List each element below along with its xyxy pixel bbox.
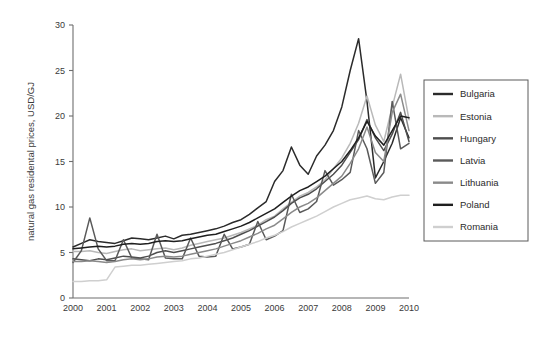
legend-label-hungary: Hungary xyxy=(460,133,496,144)
y-tick-label: 10 xyxy=(55,202,65,212)
x-tick-label: 2010 xyxy=(399,303,419,313)
legend-label-poland: Poland xyxy=(460,199,490,210)
y-tick-label: 5 xyxy=(60,248,65,258)
y-tick-label: 0 xyxy=(60,293,65,303)
y-axis-title: natural gas residental prices, USD/GJ xyxy=(25,82,36,241)
y-tick-label: 30 xyxy=(55,20,65,30)
x-tick-label: 2001 xyxy=(97,303,117,313)
legend-label-estonia: Estonia xyxy=(460,111,492,122)
x-tick-label: 2009 xyxy=(365,303,385,313)
x-tick-label: 2005 xyxy=(231,303,251,313)
x-tick-label: 2004 xyxy=(197,303,217,313)
legend-label-bulgaria: Bulgaria xyxy=(460,88,496,99)
legend-label-romania: Romania xyxy=(460,221,499,232)
x-tick-label: 2002 xyxy=(130,303,150,313)
legend-label-lithuania: Lithuania xyxy=(460,177,499,188)
chart-figure: 051015202530 200020012002200320042005200… xyxy=(0,0,539,342)
x-tick-label: 2006 xyxy=(265,303,285,313)
legend-label-latvia: Latvia xyxy=(460,155,486,166)
y-tick-label: 25 xyxy=(55,66,65,76)
x-tick-label: 2000 xyxy=(63,303,83,313)
x-tick-label: 2008 xyxy=(332,303,352,313)
x-tick-label: 2003 xyxy=(164,303,184,313)
y-tick-label: 20 xyxy=(55,111,65,121)
y-axis-label: natural gas residental prices, USD/GJ xyxy=(25,82,36,241)
y-tick-label: 15 xyxy=(55,157,65,167)
chart-legend: BulgariaEstoniaHungaryLatviaLithuaniaPol… xyxy=(424,80,528,241)
x-tick-label: 2007 xyxy=(298,303,318,313)
